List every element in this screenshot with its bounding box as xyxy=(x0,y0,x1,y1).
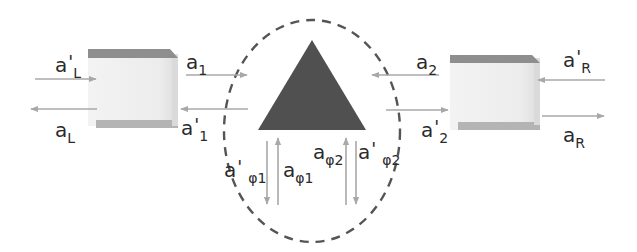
label-a2-prime: a'2 xyxy=(421,120,448,140)
label-aL: aL xyxy=(55,120,75,140)
label-base: a xyxy=(283,158,295,182)
label-sub: 2 xyxy=(439,130,448,146)
label-a2: a2 xyxy=(416,52,437,72)
label-base: a xyxy=(416,50,428,74)
label-base: a xyxy=(224,158,236,182)
label-base: a xyxy=(313,140,325,164)
label-sub: φ2 xyxy=(382,152,400,168)
label-aphi1-prime: a'φ1 xyxy=(224,160,266,180)
label-base: a xyxy=(358,140,370,164)
label-sub: R xyxy=(575,135,585,151)
label-base: a xyxy=(55,53,67,77)
label-sub: φ1 xyxy=(248,170,266,186)
right-waveguide-box xyxy=(450,55,540,130)
label-base: a xyxy=(563,123,575,147)
label-sub: 1 xyxy=(199,128,208,144)
label-prime: ' xyxy=(237,156,242,177)
label-aphi1: aφ1 xyxy=(283,160,313,180)
label-a1-prime: a'1 xyxy=(181,118,208,138)
label-base: a xyxy=(181,116,193,140)
label-sub: φ1 xyxy=(295,170,313,186)
label-sub: R xyxy=(581,60,591,76)
label-a1: a1 xyxy=(186,52,207,72)
label-aR-prime: a'R xyxy=(563,50,591,70)
label-base: a xyxy=(563,48,575,72)
label-base: a xyxy=(55,118,67,142)
label-base: a xyxy=(421,118,433,142)
label-aR: aR xyxy=(563,125,585,145)
scatterer-triangle xyxy=(258,40,366,130)
label-sub: L xyxy=(73,65,81,81)
label-sub: L xyxy=(67,130,75,146)
label-prime: ' xyxy=(371,138,376,159)
diagram-canvas: a'L aL a1 a'1 a2 a'2 a'R aR a'φ1 aφ1 aφ2… xyxy=(0,0,637,252)
label-aphi2: aφ2 xyxy=(313,142,343,162)
label-aphi2-prime: a'φ2 xyxy=(358,142,400,162)
label-aL-prime: a'L xyxy=(55,55,81,75)
left-waveguide-box xyxy=(88,49,178,128)
diagram-graphics xyxy=(0,0,637,252)
label-sub: 2 xyxy=(428,62,437,78)
label-sub: 1 xyxy=(198,62,207,78)
label-sub: φ2 xyxy=(325,152,343,168)
label-base: a xyxy=(186,50,198,74)
